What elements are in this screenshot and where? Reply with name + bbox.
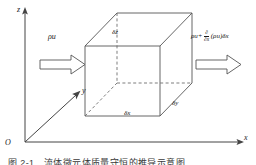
z-axis-label: z	[17, 6, 20, 14]
outflow-flux-prefix: ρu+	[191, 33, 203, 40]
control-volume-figure: z x y O δz δx δy ρu ρu+∂∂x(ρu)δx 图 2-1 流…	[0, 0, 256, 165]
partial-derivative-fraction: ∂∂x	[203, 30, 210, 43]
cube-hidden-edge-bottom-left-oblique	[85, 83, 117, 116]
outflow-flux-label: ρu+∂∂x(ρu)δx	[191, 30, 229, 43]
axis-group	[22, 7, 244, 145]
delta-x-label: δx	[124, 110, 130, 117]
diagram-canvas	[0, 0, 256, 165]
figure-caption: 图 2-1 流体微元体质量守恒的推导示意图	[8, 156, 185, 165]
cube-top-face-edges	[85, 13, 192, 46]
outflow-arrow	[196, 55, 241, 74]
delta-z-label: δz	[112, 29, 118, 36]
x-axis-label: x	[244, 134, 248, 142]
fraction-denominator: ∂x	[203, 37, 210, 43]
y-axis-label: y	[82, 87, 86, 95]
inflow-flux-label: ρu	[48, 33, 56, 41]
y-axis-line	[25, 95, 76, 142]
delta-y-label: δy	[172, 100, 178, 107]
outflow-flux-suffix: (ρu)δx	[211, 33, 229, 40]
inflow-arrow	[40, 55, 85, 74]
caption-strip: 图 2-1 流体微元体质量守恒的推导示意图	[0, 155, 256, 165]
origin-label: O	[5, 139, 11, 147]
cube-front-face-edges	[85, 46, 160, 116]
